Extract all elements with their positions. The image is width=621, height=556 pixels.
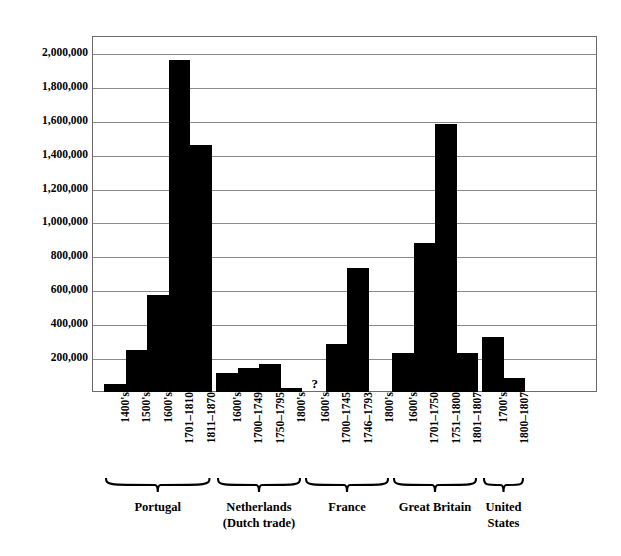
y-axis-tick-labels: 200,000400,000600,000800,0001,000,0001,2…	[0, 36, 88, 392]
bar	[457, 353, 479, 392]
clipped-title-fragment	[250, 0, 610, 6]
bar	[126, 350, 148, 392]
group-brace	[304, 478, 390, 494]
unknown-value-marker: ?	[304, 377, 326, 390]
y-axis-tick-label: 2,000,000	[2, 47, 88, 59]
x-axis-period-label: 1700's	[498, 392, 510, 427]
x-axis-period-label: 1800's	[384, 392, 396, 427]
x-axis-period-label: 1600's	[320, 392, 332, 427]
x-axis-period-label: 1800's	[296, 392, 308, 427]
y-axis-tick-label: 600,000	[2, 285, 88, 297]
y-axis-tick-label: 1,000,000	[2, 217, 88, 229]
group-names: PortugalNetherlands (Dutch trade)FranceG…	[92, 500, 597, 556]
x-axis-period-label: 1500's	[141, 392, 153, 427]
group-brace	[392, 478, 478, 494]
bar	[259, 364, 281, 392]
x-axis-period-label: 1600's	[232, 392, 244, 427]
group-brace	[482, 478, 525, 494]
group-brace	[104, 478, 212, 494]
x-axis-period-label: 1750–1795	[275, 392, 287, 448]
x-axis-period-label: 1600's	[163, 392, 175, 427]
x-axis-period-label: 1600's	[408, 392, 420, 427]
bar	[147, 295, 169, 392]
y-axis-tick-label: 1,400,000	[2, 149, 88, 161]
y-axis-tick-label: 200,000	[2, 352, 88, 364]
bar	[190, 145, 212, 393]
x-axis-period-label: 1400's	[120, 392, 132, 427]
y-axis-tick-label: 1,800,000	[2, 81, 88, 93]
y-axis-tick-label: 1,600,000	[2, 115, 88, 127]
group-brace	[216, 478, 302, 494]
y-axis-tick-label: 800,000	[2, 251, 88, 263]
bar	[216, 373, 238, 392]
x-axis-period-label: 1800–1807	[519, 392, 531, 448]
group-name: United States	[452, 500, 555, 531]
x-axis-period-label: 1746–1793	[363, 392, 375, 448]
bar	[504, 378, 526, 392]
x-axis-period-label: 1751–1800	[451, 392, 463, 448]
y-axis-tick-label: 400,000	[2, 318, 88, 330]
x-axis-period-label: 1801–1807	[472, 392, 484, 448]
x-axis-period-label: 1700–1745	[341, 392, 353, 448]
bar	[414, 243, 436, 392]
bars-layer: ?	[92, 36, 597, 392]
bar	[326, 344, 348, 392]
bar	[347, 268, 369, 392]
x-axis-period-label: 1701–1810	[184, 392, 196, 448]
y-axis-tick-label: 1,200,000	[2, 183, 88, 195]
bar	[238, 368, 260, 392]
bar	[392, 353, 414, 392]
x-axis-period-label: 1700–1749	[253, 392, 265, 448]
group-braces	[92, 478, 597, 502]
x-axis-period-labels: 1400's1500's1600's1701–18101811–18701600…	[92, 392, 597, 488]
x-axis-period-label: 1811–1870	[206, 392, 218, 447]
bar	[482, 337, 504, 392]
x-axis-period-label: 1701–1750	[429, 392, 441, 448]
bar	[435, 124, 457, 392]
bar	[169, 60, 191, 392]
bar-chart-figure: 200,000400,000600,000800,0001,000,0001,2…	[0, 0, 621, 556]
